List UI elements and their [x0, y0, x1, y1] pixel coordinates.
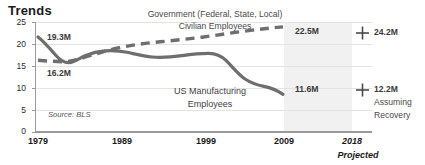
y-tick-0: 0 — [10, 126, 26, 136]
government-start-label: 16.2M — [47, 68, 71, 78]
government-projected-label: 24.2M — [374, 27, 398, 37]
projection-marker-government — [356, 27, 369, 40]
y-tick-10: 10 — [10, 83, 26, 93]
trends-chart-figure: Trends — [0, 0, 425, 165]
manufacturing-series-title-line2: Employees — [145, 99, 275, 110]
manufacturing-end-label: 11.6M — [295, 84, 318, 94]
shaded-band — [284, 22, 352, 132]
y-tick-25: 25 — [10, 17, 26, 27]
x-tick-1989: 1989 — [100, 136, 144, 146]
manufacturing-start-label: 19.3M — [47, 32, 71, 42]
manufacturing-projected-note-line1: Assuming — [374, 97, 412, 107]
x-tick-2018: 2018 — [330, 136, 374, 146]
government-series-title-line1: Government (Federal, State, Local) — [110, 9, 320, 20]
y-tick-20: 20 — [10, 39, 26, 49]
government-series-title-line2: Civilian Employees — [110, 21, 320, 32]
source-note: Source: BLS — [48, 110, 91, 119]
y-tick-5: 5 — [10, 105, 26, 115]
x-tick-2009: 2009 — [262, 136, 306, 146]
x-tick-projected-sublabel: Projected — [330, 150, 386, 160]
manufacturing-projected-label: 12.2M — [374, 84, 398, 94]
x-tick-1979: 1979 — [16, 136, 60, 146]
manufacturing-series-title-line1: US Manufacturing — [145, 86, 275, 97]
manufacturing-projected-note-line2: Recovery — [374, 110, 410, 120]
x-tick-1999: 1999 — [184, 136, 228, 146]
government-end-label: 22.5M — [295, 26, 319, 36]
y-tick-15: 15 — [10, 61, 26, 71]
projection-marker-manufacturing — [356, 84, 369, 97]
